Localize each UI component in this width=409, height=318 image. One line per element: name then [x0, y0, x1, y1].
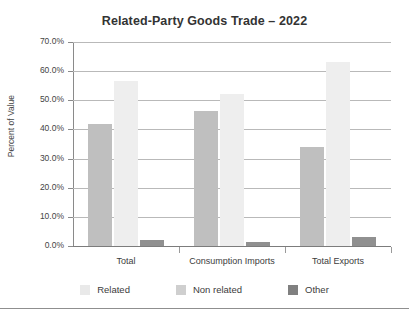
chart-legend: RelatedNon relatedOther [0, 284, 409, 295]
x-axis-category-separator [391, 247, 392, 253]
x-axis-category-separator [179, 247, 180, 253]
bar-non-related[interactable] [114, 81, 138, 246]
x-axis-label-total-exports: Total Exports [285, 256, 391, 266]
gridline [73, 246, 391, 247]
bar-other[interactable] [352, 237, 376, 246]
bar-related[interactable] [88, 124, 112, 246]
y-axis-tick-label: 60.0% [6, 65, 64, 75]
y-axis-tick-label: 0.0% [6, 240, 64, 250]
chart-title: Related-Party Goods Trade – 2022 [0, 14, 409, 28]
bar-other[interactable] [246, 242, 270, 246]
x-axis-category-separator [285, 247, 286, 253]
x-axis-label-total: Total [73, 256, 179, 266]
bar-related[interactable] [194, 111, 218, 247]
y-axis-tick-label: 20.0% [6, 182, 64, 192]
y-axis-tick-label: 50.0% [6, 94, 64, 104]
legend-label: Other [305, 284, 329, 295]
legend-label: Non related [193, 284, 242, 295]
bar-related[interactable] [300, 147, 324, 246]
chart-container: Related-Party Goods Trade – 2022 Percent… [0, 0, 409, 318]
y-axis-tick-label: 10.0% [6, 211, 64, 221]
legend-swatch-icon [288, 285, 298, 295]
bar-non-related[interactable] [220, 94, 244, 246]
bottom-divider [0, 308, 409, 309]
legend-swatch-icon [176, 285, 186, 295]
x-axis-label-consumption-imports: Consumption Imports [179, 256, 285, 266]
legend-item-non-related[interactable]: Non related [176, 284, 242, 295]
legend-item-other[interactable]: Other [288, 284, 329, 295]
y-axis-tick-label: 70.0% [6, 36, 64, 46]
y-axis-tick-label: 30.0% [6, 153, 64, 163]
legend-swatch-icon [80, 285, 90, 295]
gridline [73, 42, 391, 43]
plot-area [73, 42, 391, 246]
legend-item-related[interactable]: Related [80, 284, 130, 295]
legend-label: Related [97, 284, 130, 295]
y-axis-tick-label: 40.0% [6, 123, 64, 133]
bar-non-related[interactable] [326, 62, 350, 246]
bar-other[interactable] [140, 240, 164, 246]
